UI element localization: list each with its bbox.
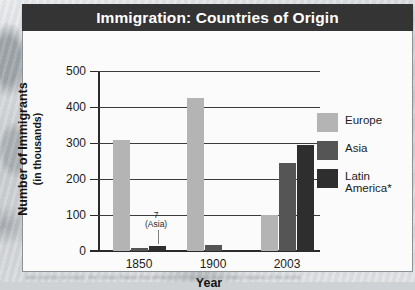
- y-tick-400: [90, 107, 98, 108]
- bar-1850-asia: [131, 248, 148, 251]
- chart-figure: Immigration: Countries of Origin Number …: [22, 4, 413, 272]
- y-tick-label-100: 100: [66, 208, 86, 222]
- y-tick-label-500: 500: [66, 64, 86, 78]
- y-tick-500: [90, 71, 98, 72]
- chart-legend: EuropeAsiaLatinAmerica*: [317, 113, 403, 204]
- y-axis-title-main: Number of Immigrants: [16, 82, 30, 215]
- legend-swatch-icon: [317, 113, 338, 132]
- bar-group-1900: [187, 98, 240, 251]
- x-tick-label-1850: 1850: [126, 257, 153, 271]
- y-tick-200: [90, 179, 98, 180]
- legend-item-europe: Europe: [317, 113, 403, 132]
- bar-1850-latinamerica: [149, 246, 166, 251]
- y-tick-label-0: 0: [79, 244, 86, 258]
- chart-panel: Number of Immigrants (in thousands) 0100…: [22, 31, 413, 272]
- plot-area: 0100200300400500 185019002003 7 (Asia) Y…: [98, 71, 320, 251]
- bar-2003-asia: [279, 163, 296, 251]
- y-tick-label-400: 400: [66, 100, 86, 114]
- y-tick-label-300: 300: [66, 136, 86, 150]
- bar-1850-europe: [113, 140, 130, 251]
- y-tick-300: [90, 143, 98, 144]
- bar-2003-europe: [261, 215, 278, 251]
- bar-1900-europe: [187, 98, 204, 251]
- y-tick-0: [90, 251, 98, 252]
- y-axis-title: Number of Immigrants (in thousands): [16, 82, 43, 215]
- asia-1850-annotation: 7 (Asia): [145, 211, 167, 229]
- y-tick-label-200: 200: [66, 172, 86, 186]
- gridline-500: [98, 71, 320, 72]
- bar-1900-asia: [205, 245, 222, 251]
- legend-label: Europe: [345, 113, 382, 126]
- x-tick-label-1900: 1900: [200, 257, 227, 271]
- chart-title-bar: Immigration: Countries of Origin: [22, 4, 413, 31]
- legend-swatch-icon: [317, 141, 338, 160]
- legend-label: Asia: [345, 141, 367, 154]
- legend-swatch-icon: [317, 169, 338, 188]
- annotation-note: (Asia): [145, 220, 167, 229]
- y-tick-100: [90, 215, 98, 216]
- legend-label: LatinAmerica*: [345, 169, 392, 195]
- y-axis-line: [98, 71, 100, 251]
- x-tick-label-2003: 2003: [274, 257, 301, 271]
- figure-caption: and country of origin, the United States…: [26, 274, 412, 280]
- y-axis-title-sub: (in thousands): [31, 82, 43, 215]
- bar-group-2003: [261, 145, 314, 251]
- chart-title: Immigration: Countries of Origin: [96, 9, 339, 27]
- legend-item-asia: Asia: [317, 141, 403, 160]
- bar-2003-latinamerica: [297, 145, 314, 251]
- bar-1900-latinamerica: [223, 250, 240, 252]
- annotation-leader-line: [158, 230, 159, 244]
- legend-item-latinamerica: LatinAmerica*: [317, 169, 403, 195]
